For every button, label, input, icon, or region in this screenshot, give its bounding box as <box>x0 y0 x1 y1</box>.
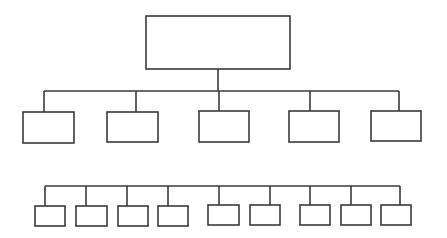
level1-node <box>371 111 421 141</box>
level2-node-box <box>341 205 371 225</box>
level2-node-box <box>158 206 188 226</box>
level1-node <box>23 112 74 143</box>
level1-node-box <box>289 111 339 142</box>
chart-nodes <box>23 16 421 226</box>
level2-node <box>118 206 148 226</box>
level2-node <box>250 205 280 225</box>
level2-node-box <box>208 205 239 225</box>
level2-node-box <box>35 206 65 226</box>
level1-node <box>107 112 158 142</box>
root-node-box <box>146 16 290 69</box>
level2-node <box>300 205 330 225</box>
level1-node <box>289 111 339 142</box>
level2-node <box>208 205 239 225</box>
level1-node-box <box>107 112 158 142</box>
level2-node <box>76 206 107 226</box>
root-node <box>146 16 290 69</box>
level2-node <box>158 206 188 226</box>
level2-node-box <box>76 206 107 226</box>
level1-node <box>199 111 249 142</box>
level2-node-box <box>250 205 280 225</box>
level2-node <box>381 205 411 225</box>
level2-node-box <box>300 205 330 225</box>
level1-node-box <box>371 111 421 141</box>
level2-node-box <box>381 205 411 225</box>
level2-node <box>35 206 65 226</box>
level2-node <box>341 205 371 225</box>
level1-node-box <box>199 111 249 142</box>
level1-node-box <box>23 112 74 143</box>
level2-node-box <box>118 206 148 226</box>
org-chart-diagram <box>0 0 447 238</box>
